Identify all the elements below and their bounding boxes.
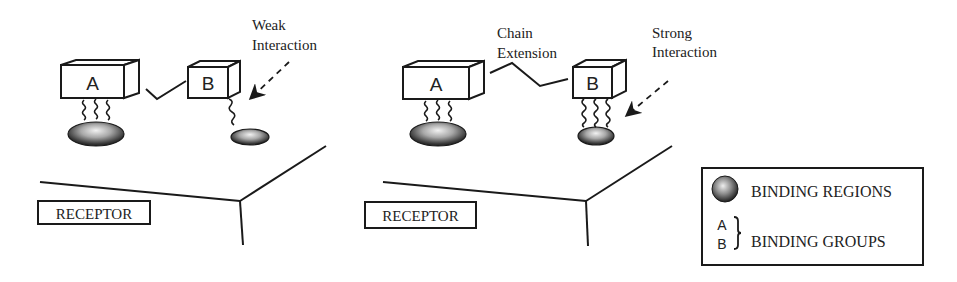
receptor-label-text: RECEPTOR [382, 208, 458, 224]
legend-group-symbol-a: A [717, 217, 727, 233]
binding-region-legend-icon [712, 176, 738, 202]
group-b-label: B [586, 73, 599, 94]
binding-region-a-right [410, 122, 466, 146]
legend: BINDING REGIONS A B BINDING GROUPS [702, 168, 923, 265]
weak-interaction-label-line1: Weak [252, 17, 286, 33]
strong-interaction-arrow [626, 81, 668, 116]
binding-region-b-right [578, 127, 614, 145]
legend-group-symbol-b: B [717, 236, 726, 252]
diagram-canvas: A B Weak Interaction RECEPTOR [0, 0, 957, 282]
left-panel: A B Weak Interaction RECEPTOR [38, 17, 326, 245]
legend-binding-regions-label: BINDING REGIONS [751, 183, 892, 200]
group-a-label: A [86, 73, 99, 94]
interaction-squiggles-b-right [582, 99, 610, 127]
binding-region-b-left [231, 129, 269, 145]
weak-interaction-label-line2: Interaction [252, 37, 317, 53]
interaction-squiggle-b-left [229, 99, 235, 125]
binding-group-b-left: B [188, 61, 240, 98]
binding-group-a-right: A [403, 61, 484, 99]
chain-extension-label-line2: Extension [497, 45, 557, 61]
chain-extension-label-line1: Chain [497, 25, 533, 41]
weak-interaction-arrow [250, 62, 289, 99]
receptor-label-left: RECEPTOR [38, 201, 150, 224]
receptor-label-text: RECEPTOR [56, 206, 132, 222]
group-b-label: B [202, 73, 215, 94]
strong-interaction-label-line1: Strong [652, 25, 693, 41]
strong-interaction-label-line2: Interaction [652, 44, 717, 60]
binding-group-a-left: A [61, 60, 139, 98]
binding-region-a-left [68, 122, 124, 146]
receptor-surface-right [383, 146, 672, 246]
right-panel: A Chain Extension B Strong I [365, 25, 717, 246]
linker-chain-extended [490, 63, 568, 86]
group-a-label: A [430, 74, 443, 95]
receptor-label-right: RECEPTOR [365, 202, 476, 228]
legend-binding-groups-label: BINDING GROUPS [751, 233, 886, 250]
linker-chain-short [146, 81, 186, 99]
interaction-squiggles-a-left [83, 99, 110, 120]
receptor-surface-left [40, 146, 326, 245]
binding-group-b-right: B [573, 60, 626, 98]
interaction-squiggles-a-right [425, 100, 452, 121]
